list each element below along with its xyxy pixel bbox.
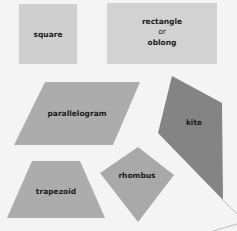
rectangle-label-line3: oblong	[148, 38, 177, 47]
parallelogram-label: parallelogram	[47, 109, 106, 118]
trapezoid-label: trapezoid	[36, 187, 76, 196]
square-shape: square	[19, 4, 77, 64]
kite-label: kite	[186, 118, 202, 127]
quadrilaterals-diagram: square rectangle or oblong parallelogram…	[0, 0, 237, 231]
rectangle-label-line2: or	[158, 27, 167, 36]
square-label: square	[33, 30, 62, 39]
rectangle-shape: rectangle or oblong	[107, 3, 217, 64]
rectangle-label-line1: rectangle	[142, 17, 182, 26]
rhombus-label: rhombus	[118, 171, 156, 180]
